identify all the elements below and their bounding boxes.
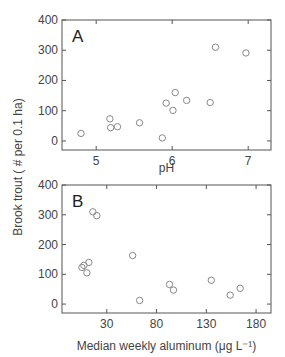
data-point — [136, 297, 142, 303]
y-tick-label: 200 — [38, 238, 58, 252]
data-point — [84, 270, 90, 276]
data-point — [208, 277, 214, 283]
y-tick-label: 400 — [38, 13, 58, 27]
data-point — [136, 120, 142, 126]
panel-b: 01002003004003080130180BMedian weekly al… — [38, 178, 271, 353]
y-tick-label: 200 — [38, 73, 58, 87]
x-tick-label: 180 — [246, 317, 266, 331]
data-point — [129, 252, 135, 258]
data-point — [207, 99, 213, 105]
y-tick-label: 100 — [38, 104, 58, 118]
plot-frame — [62, 185, 271, 313]
data-point — [159, 135, 165, 141]
chart-figure: 0100200300400567ApH010020030040030801301… — [0, 0, 285, 357]
data-point — [86, 259, 92, 265]
data-point — [243, 50, 249, 56]
data-point — [107, 116, 113, 122]
x-tick-label: 5 — [93, 154, 100, 168]
data-point — [163, 100, 169, 106]
y-tick-label: 0 — [51, 297, 58, 311]
data-point — [172, 89, 178, 95]
data-point — [170, 107, 176, 113]
data-point — [107, 124, 113, 130]
panel-label: A — [72, 27, 84, 46]
data-point — [237, 285, 243, 291]
y-axis-label: Brook trout ( # per 0.1 ha) — [11, 77, 25, 257]
y-tick-label: 300 — [38, 208, 58, 222]
data-point — [114, 124, 120, 130]
x-axis-label: pH — [159, 161, 174, 175]
data-point — [90, 209, 96, 215]
data-point — [94, 212, 100, 218]
data-point — [227, 292, 233, 298]
x-tick-label: 130 — [196, 317, 216, 331]
data-point — [212, 44, 218, 50]
x-tick-label: 7 — [245, 154, 252, 168]
panel-a: 0100200300400567ApH — [38, 13, 271, 175]
y-tick-label: 300 — [38, 43, 58, 57]
plot-frame — [62, 20, 271, 150]
x-tick-label: 80 — [150, 317, 164, 331]
data-point — [78, 130, 84, 136]
data-point — [183, 97, 189, 103]
y-tick-label: 100 — [38, 267, 58, 281]
x-axis-label: Median weekly aluminum (μg L⁻¹) — [77, 339, 257, 353]
y-tick-label: 0 — [51, 134, 58, 148]
data-point — [170, 287, 176, 293]
x-tick-label: 30 — [100, 317, 114, 331]
panel-label: B — [72, 192, 83, 211]
y-tick-label: 400 — [38, 178, 58, 192]
data-point — [166, 281, 172, 287]
